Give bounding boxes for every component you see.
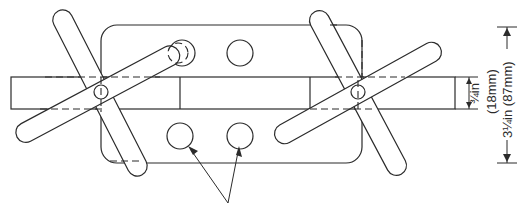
plate-height-label: 3¼in (87mm) bbox=[500, 61, 515, 138]
bar-thickness-label: ¾in bbox=[467, 83, 482, 104]
mechanical-diagram: ¾in (18mm) 3¼in (87mm) bbox=[0, 0, 520, 210]
dimension-plate-height: 3¼in (87mm) bbox=[497, 27, 517, 163]
dimension-bar-thickness: ¾in (18mm) bbox=[455, 69, 499, 114]
bar-thickness-metric-label: (18mm) bbox=[484, 69, 499, 114]
